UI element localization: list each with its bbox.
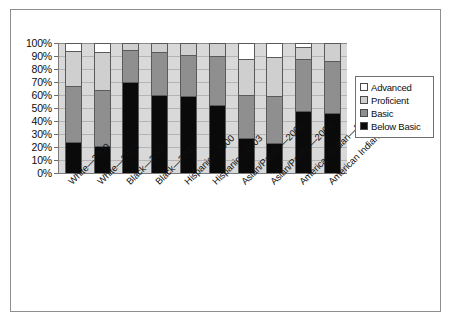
bar-segment [94,52,111,90]
bar-segment [324,43,341,61]
legend-item-label: Advanced [371,82,412,93]
chart-figure: 0%10%20%30%40%50%60%70%80%90%100% White—… [0,0,451,322]
bar-segment [266,57,283,96]
bar-segment [295,59,312,111]
bar-segment [238,95,255,138]
legend-swatch-icon [360,109,368,117]
legend-swatch-icon [360,96,368,104]
bar-segment [94,43,111,52]
legend-item: Advanced [360,81,430,93]
bar-segment [94,90,111,146]
legend-swatch-icon [360,83,368,91]
bar-segment [151,52,168,95]
bar-segment [209,43,226,56]
legend-item-label: Basic [371,108,393,119]
bar-segment [122,50,139,83]
bar-segment [266,43,283,57]
bar-segment [295,47,312,59]
legend-item: Proficient [360,94,430,106]
legend-swatch-icon [360,122,368,130]
bar-segment [238,59,255,95]
bar-segment [324,61,341,113]
chart-legend: AdvancedProficientBasicBelow Basic [355,76,434,138]
bar-segment [209,56,226,105]
bar-segment [65,86,82,142]
bar-stack [65,43,82,173]
legend-item: Basic [360,107,430,119]
bar-segment [151,43,168,52]
bar-segment [238,43,255,59]
legend-item: Below Basic [360,120,430,132]
legend-item-label: Below Basic [371,121,421,132]
bar-segment [65,43,82,51]
bar-segment [65,51,82,86]
bar-segment [180,55,197,97]
bar-segment [180,43,197,55]
legend-item-label: Proficient [371,95,409,106]
